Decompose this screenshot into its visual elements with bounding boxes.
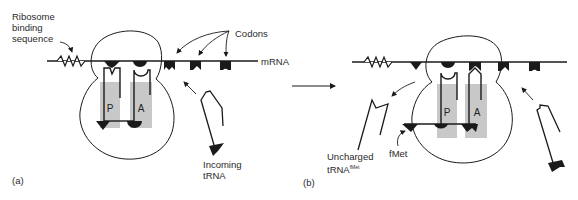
p-site-label: P [107, 103, 114, 114]
a-site-label: A [138, 103, 145, 114]
fmet-superscript: fMet [350, 164, 360, 170]
arrow-rbs [60, 42, 72, 52]
codon-a [133, 61, 147, 67]
incoming-trna [201, 91, 223, 152]
codon-2-b [529, 62, 540, 71]
panel-a-label: (a) [12, 175, 24, 186]
arrow-codon-3 [226, 31, 229, 56]
rbs-label: Ribosome binding sequence [12, 11, 55, 44]
uncharged-trna [358, 100, 388, 150]
arrow-incoming-b [522, 88, 533, 100]
rbs-label-line-2: binding [12, 22, 55, 33]
incoming-amino-acid-b [548, 160, 565, 172]
incoming-trna-b [537, 105, 560, 166]
rbs-label-line-1: Ribosome [12, 11, 55, 22]
arrow-fmet [397, 131, 405, 146]
incoming-label-line-2: tRNA [203, 170, 242, 181]
mrna-label: mRNA [261, 56, 289, 67]
ribosome-outline-b [412, 36, 512, 163]
translation-diagram: P A [0, 0, 578, 200]
panel-b: P A [352, 36, 567, 172]
incoming-trna-label: Incoming tRNA [203, 159, 242, 181]
trna-text: tRNA [327, 164, 350, 175]
uncharged-trna-label: Uncharged tRNAfMet [327, 151, 373, 175]
uncharged-label-line-1: Uncharged [327, 151, 373, 162]
codon-1-b [498, 62, 509, 71]
fmet-label: fMet [389, 148, 407, 159]
panel-a: P A [47, 31, 258, 159]
incoming-label-line-1: Incoming [203, 159, 242, 170]
codon-1 [164, 61, 175, 70]
codon-2 [190, 61, 201, 70]
ribosome-outline [80, 31, 174, 159]
incoming-amino-acid [209, 143, 224, 156]
a-site-label-b: A [474, 107, 481, 118]
arrow-uncharged-exit [392, 82, 415, 96]
arrow-incoming [184, 82, 196, 94]
p-site-label-b: P [444, 107, 451, 118]
arrow-codon-2 [199, 31, 229, 55]
codon-3 [220, 61, 231, 70]
codon-a-b [469, 62, 481, 71]
panel-b-label: (b) [303, 177, 315, 188]
ribosome-binding-sequence-b [364, 57, 392, 67]
codon-p-b [441, 62, 455, 68]
uncharged-label-line-2: tRNAfMet [327, 162, 373, 175]
codon-empty-b [410, 62, 422, 70]
ribosome-binding-sequence [57, 56, 85, 66]
codons-label: Codons [235, 28, 268, 39]
codon-p [104, 61, 120, 68]
rbs-label-line-3: sequence [12, 33, 55, 44]
